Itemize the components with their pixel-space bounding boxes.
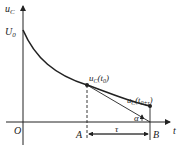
point-t0-label: uC(t0) bbox=[89, 73, 109, 84]
point-a-label: A bbox=[75, 129, 83, 140]
rc-discharge-diagram: uC U0 O A B t α τ uC(t0) uC(t0+τ) bbox=[0, 0, 181, 149]
y-axis-label: uC bbox=[5, 3, 15, 16]
angle-label: α bbox=[134, 113, 139, 123]
initial-value-label: U0 bbox=[5, 26, 16, 39]
point-t0-tau-label: uC(t0+τ) bbox=[127, 95, 153, 106]
point-t0 bbox=[85, 83, 89, 87]
tau-label: τ bbox=[115, 124, 119, 134]
origin-label: O bbox=[14, 125, 21, 136]
point-b-label: B bbox=[153, 129, 159, 140]
t-axis-label: t bbox=[173, 125, 176, 136]
